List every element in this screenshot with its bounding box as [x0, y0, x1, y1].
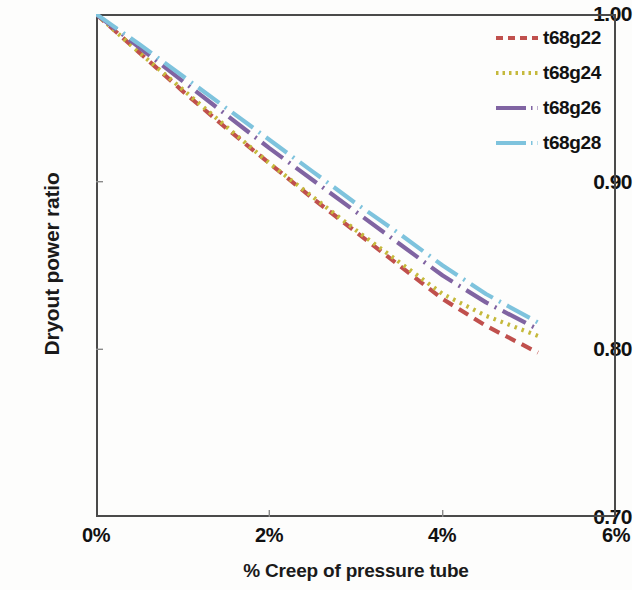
legend-swatch-t68g24: [495, 66, 539, 80]
legend-swatch-t68g28: [495, 136, 539, 150]
legend-swatch-t68g22: [495, 31, 539, 45]
legend-label-t68g28: t68g28: [543, 132, 601, 154]
x-tick-label-2: 2%: [239, 524, 299, 547]
series-line-t68g22: [96, 14, 538, 353]
axis-ticks: [96, 182, 443, 517]
legend-label-t68g22: t68g22: [543, 27, 601, 49]
x-tick-label-0: 0%: [66, 524, 126, 547]
series-line-t68g26: [96, 14, 538, 329]
x-axis-title: % Creep of pressure tube: [96, 560, 616, 582]
legend-row-t68g22: t68g22: [495, 20, 625, 55]
series-group: [96, 14, 538, 353]
legend-label-t68g24: t68g24: [543, 62, 601, 84]
legend-row-t68g26: t68g26: [495, 90, 625, 125]
legend-label-t68g26: t68g26: [543, 97, 601, 119]
series-line-t68g28: [96, 14, 538, 323]
legend-swatch-t68g26: [495, 101, 539, 115]
legend-row-t68g28: t68g28: [495, 125, 625, 160]
y-axis-title: Dryout power ratio: [40, 114, 64, 414]
legend-row-t68g24: t68g24: [495, 55, 625, 90]
x-tick-label-6: 6%: [586, 524, 637, 547]
x-tick-label-4: 4%: [412, 524, 472, 547]
legend: t68g22 t68g24 t68g26 t68g28: [495, 20, 625, 160]
